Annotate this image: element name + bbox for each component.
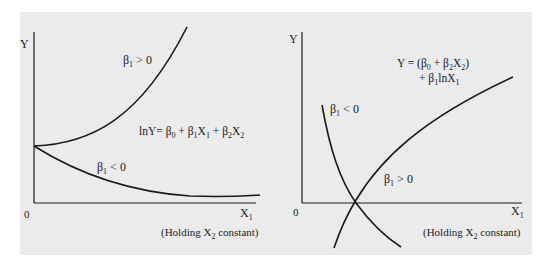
left-curve-beta-negative [34,146,260,196]
right-holding-note: (Holding X2 constant) [423,226,521,241]
right-equation-line2: + β1lnX1 [419,72,459,87]
left-y-axis-label: Y [20,37,29,51]
left-origin-label: 0 [24,208,30,220]
right-curve-beta-positive [334,77,513,248]
right-x-axis-label: X1 [511,204,524,220]
log-models-diagram: Y 0 X1 β1 > 0 β1 < 0 lnY= β0 + β1X1 + β2… [0,0,550,273]
left-label-beta-positive: β1 > 0 [123,53,152,69]
right-equation-line1: Y = (β0 + β2X2) [397,57,469,72]
left-holding-note: (Holding X2 constant) [161,226,259,241]
left-x-axis-label: X1 [240,206,253,222]
right-y-axis-label: Y [289,32,298,46]
left-panel: Y 0 X1 β1 > 0 β1 < 0 lnY= β0 + β1X1 + β2… [20,27,260,241]
right-label-beta-positive: β1 > 0 [384,172,413,188]
right-panel: Y 0 X1 β1 < 0 β1 > 0 Y = (β0 + β2X2) + β… [289,32,524,248]
right-origin-label: 0 [293,206,299,218]
left-label-beta-negative: β1 < 0 [97,160,126,176]
left-equation: lnY= β0 + β1X1 + β2X2 [139,125,244,140]
right-label-beta-negative: β1 < 0 [330,102,359,118]
